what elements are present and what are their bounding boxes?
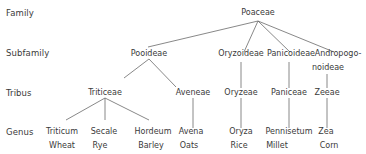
edge-poaceae-panicoideae: [258, 21, 290, 52]
node-tribe-triticeae: Triticeae: [88, 88, 122, 98]
node-tribe-zeeae: Zeeae: [314, 88, 339, 98]
node-common-oats: Oats: [180, 141, 199, 151]
node-genus-secale: Secale: [91, 127, 117, 137]
node-common-barley: Barley: [138, 141, 164, 151]
node-tribe-oryzeae: Oryzeae: [224, 88, 257, 98]
edge-pooideae-triticeae: [124, 59, 149, 78]
node-genus-oryza: Oryza: [229, 127, 252, 137]
rank-label-genus: Genus: [6, 127, 34, 137]
edge-triticeae-hordeum: [105, 98, 149, 120]
node-subfamily-andropogonoideae-line2: noideae: [312, 63, 344, 73]
rank-label-family: Family: [6, 8, 34, 18]
node-genus-pennisetum: Pennisetum: [266, 127, 313, 137]
edge-poaceae-pooideae: [148, 21, 258, 47]
node-common-rice: Rice: [230, 141, 247, 151]
node-tribe-paniceae: Paniceae: [271, 88, 307, 98]
node-genus-hordeum: Hordeum: [135, 127, 172, 137]
edge-pooideae-aveneae: [149, 59, 176, 87]
edge-poaceae-oryzoideae: [244, 21, 258, 52]
node-common-wheat: Wheat: [49, 141, 75, 151]
node-common-rye: Rye: [93, 141, 108, 151]
edge-triticeae-triticum: [66, 98, 105, 120]
node-subfamily-pooideae: Pooideae: [131, 49, 167, 59]
node-subfamily-andropogonoideae-line1: Andropogo-: [315, 49, 362, 59]
node-family-poaceae: Poaceae: [241, 8, 274, 18]
node-subfamily-oryzoideae: Oryzoideae: [218, 49, 263, 59]
node-genus-triticum: Triticum: [46, 127, 78, 137]
rank-label-subfamily: Subfamily: [6, 48, 49, 58]
edge-poaceae-andropogonoideae: [258, 21, 334, 52]
node-common-corn: Corn: [320, 141, 339, 151]
node-common-millet: Millet: [266, 141, 288, 151]
node-genus-avena: Avena: [179, 127, 204, 137]
node-genus-zea: Zea: [318, 127, 333, 137]
rank-label-tribus: Tribus: [6, 88, 32, 98]
node-tribe-aveneae: Aveneae: [176, 88, 210, 98]
node-subfamily-panicoideae: Panicoideae: [267, 49, 315, 59]
